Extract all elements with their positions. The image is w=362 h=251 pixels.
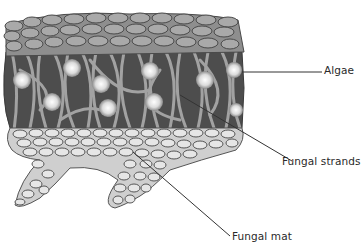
label-fungal-mat: Fungal mat xyxy=(232,230,292,242)
lower-fungal-mat xyxy=(7,128,243,208)
algal-layer xyxy=(4,52,244,130)
lichen-diagram: Algae Fungal strands Fungal mat xyxy=(0,0,362,251)
label-algae: Algae xyxy=(324,64,354,76)
label-fungal-strands: Fungal strands xyxy=(282,155,361,167)
upper-cortex xyxy=(4,13,244,56)
lichen-illustration xyxy=(0,0,362,251)
